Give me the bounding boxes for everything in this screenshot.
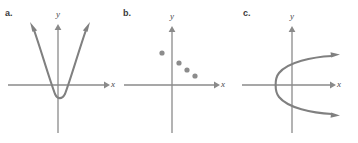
- panel-c-y-axis: [289, 26, 296, 133]
- panel-c: c. y x: [238, 0, 358, 143]
- scatter-point: [176, 60, 181, 65]
- panel-a-plot: [0, 0, 120, 143]
- panel-a-x-axis-label: x: [111, 80, 115, 89]
- panel-b-plot: [118, 0, 238, 143]
- panel-a-x-axis: [8, 82, 110, 89]
- panel-a-y-axis-label: y: [56, 10, 60, 19]
- panel-b: b. y x: [118, 0, 238, 143]
- panel-a-parabola-curve: [30, 22, 90, 98]
- figure-three-graph-panels: a. y x b.: [0, 0, 358, 143]
- panel-c-y-axis-label: y: [290, 12, 294, 21]
- scatter-point: [159, 50, 164, 55]
- panel-b-y-axis: [169, 26, 176, 133]
- panel-c-plot: [238, 0, 358, 143]
- panel-a: a. y x: [0, 0, 120, 143]
- panel-b-x-axis-label: x: [221, 80, 225, 89]
- panel-c-x-axis-label: x: [337, 80, 341, 89]
- panel-c-x-axis: [242, 82, 336, 89]
- panel-b-scatter-points: [159, 50, 197, 78]
- scatter-point: [184, 67, 189, 72]
- panel-a-y-axis: [55, 24, 62, 133]
- panel-b-y-axis-label: y: [170, 12, 174, 21]
- scatter-point: [192, 73, 197, 78]
